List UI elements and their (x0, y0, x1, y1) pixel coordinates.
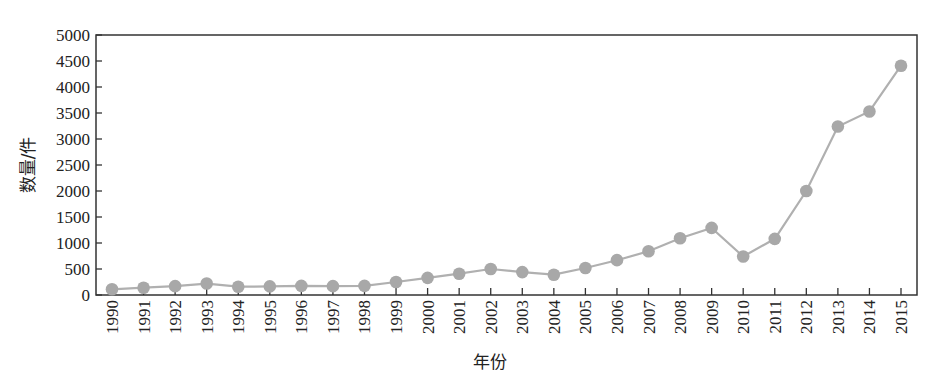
data-point-marker (200, 277, 213, 290)
data-point-marker (832, 120, 845, 133)
data-point-marker (674, 232, 687, 245)
y-axis-title: 数量/件 (18, 137, 38, 194)
x-tick-label: 2010 (734, 300, 753, 334)
x-tick-label: 2014 (860, 300, 879, 335)
x-tick-label: 2015 (892, 300, 911, 334)
data-point-marker (516, 266, 529, 279)
x-tick-label: 1996 (292, 300, 311, 334)
x-tick-label: 2012 (797, 300, 816, 334)
x-tick-label: 1990 (103, 300, 122, 334)
line-chart: 0500100015002000250030003500400045005000… (0, 0, 934, 391)
series-line (112, 66, 901, 290)
y-tick-label: 1500 (56, 208, 90, 227)
y-tick-label: 5000 (56, 26, 90, 45)
data-point-marker (390, 276, 403, 289)
x-tick-label: 2000 (419, 300, 438, 334)
y-tick-label: 1000 (56, 234, 90, 253)
data-point-marker (737, 250, 750, 263)
x-tick-label: 2003 (513, 300, 532, 334)
data-point-marker (327, 280, 340, 293)
data-point-marker (611, 254, 624, 267)
x-axis-title: 年份 (473, 352, 507, 372)
data-point-marker (895, 59, 908, 72)
data-point-marker (705, 222, 718, 235)
x-tick-label: 1998 (355, 300, 374, 334)
data-point-marker (169, 280, 182, 293)
x-tick-label: 1995 (261, 300, 280, 334)
data-point-marker (358, 280, 371, 293)
y-tick-label: 4500 (56, 52, 90, 71)
y-tick-label: 3000 (56, 130, 90, 149)
x-tick-label: 1994 (229, 300, 248, 335)
x-tick-label: 2004 (545, 300, 564, 335)
x-tick-label: 2005 (576, 300, 595, 334)
data-point-marker (421, 272, 434, 285)
x-tick-label: 2001 (450, 300, 469, 334)
x-tick-label: 1999 (387, 300, 406, 334)
y-tick-label: 500 (65, 260, 91, 279)
x-tick-label: 1992 (166, 300, 185, 334)
y-tick-label: 4000 (56, 78, 90, 97)
x-tick-label: 2007 (640, 300, 659, 335)
plot-frame (96, 35, 917, 295)
x-tick-label: 1993 (198, 300, 217, 334)
x-tick-label: 2002 (482, 300, 501, 334)
y-axis-ticks: 0500100015002000250030003500400045005000 (56, 26, 102, 305)
data-point-marker (642, 245, 655, 258)
data-point-marker (137, 281, 150, 294)
x-tick-label: 2006 (608, 300, 627, 334)
data-point-marker (548, 268, 561, 281)
data-point-marker (295, 280, 308, 293)
data-point-marker (579, 262, 592, 275)
data-point-marker (453, 267, 466, 280)
data-point-marker (768, 233, 781, 246)
y-tick-label: 2000 (56, 182, 90, 201)
x-tick-label: 2009 (703, 300, 722, 334)
data-point-marker (106, 283, 119, 296)
data-series (106, 59, 908, 295)
y-tick-label: 0 (82, 286, 91, 305)
data-point-marker (232, 280, 245, 293)
x-tick-label: 2011 (766, 300, 785, 333)
data-point-marker (264, 280, 277, 293)
x-tick-label: 2013 (829, 300, 848, 334)
x-tick-label: 1991 (135, 300, 154, 334)
data-point-marker (800, 185, 813, 198)
data-point-marker (863, 105, 876, 118)
x-tick-label: 1997 (324, 300, 343, 335)
y-tick-label: 2500 (56, 156, 90, 175)
data-point-marker (484, 263, 497, 276)
x-tick-label: 2008 (671, 300, 690, 334)
y-tick-label: 3500 (56, 104, 90, 123)
